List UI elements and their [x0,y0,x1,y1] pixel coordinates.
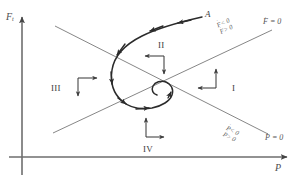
region-2-arrows [145,56,164,74]
f-dot-accent: ˙ [264,16,266,23]
direction-field-group [78,56,216,137]
region-label-ii: II [158,41,164,50]
figure-canvas [0,0,305,183]
region-label-iii: III [51,84,61,93]
f-dot-symbol: F˙ [263,18,268,26]
trajectory-arrowhead-1 [178,20,191,23]
p-dot-equals: = 0 [272,133,283,142]
region-label-iv: IV [143,145,153,154]
region-label-i: I [232,84,235,93]
region-3-arrows [78,78,97,96]
trajectory-path [111,17,202,109]
trajectory-start-label-a: A [205,10,211,19]
phase-plane-figure: Ft P A I II III IV F˙ = 0 F˙< 0 F˙> 0 P˙… [0,0,305,183]
f-dot-zero-label: F˙ = 0 [263,18,281,26]
y-axis-label-subscript: t [12,15,14,22]
f-dot-equals: = 0 [270,17,281,26]
trajectory-arrowhead-6 [136,108,149,109]
y-axis-label: Ft [6,12,14,23]
trajectory-arrowhead-4 [111,72,112,84]
p-dot-accent: ˙ [266,132,268,139]
trajectory-group [0,0,202,109]
trajectory-arrowhead-3 [117,44,125,55]
p-dot-symbol: P˙ [265,134,270,142]
p-dot-zero-label: P˙ = 0 [265,134,283,142]
x-axis-label: P [275,163,281,173]
region-1-arrows [198,69,216,88]
region-4-arrows [146,118,164,137]
